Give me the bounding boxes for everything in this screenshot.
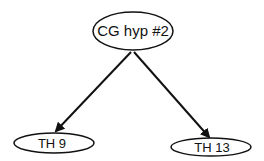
tree-diagram: CG hyp #2 TH 9 TH 13 xyxy=(0,0,264,161)
node-label: CG hyp #2 xyxy=(97,22,169,39)
edge-root-to-th9 xyxy=(56,52,131,131)
node-label: TH 13 xyxy=(194,140,229,155)
diagram-canvas: CG hyp #2 TH 9 TH 13 xyxy=(0,0,264,161)
node-cg-hyp-2: CG hyp #2 xyxy=(93,12,173,50)
node-th-9: TH 9 xyxy=(14,133,94,153)
edge-root-to-th13 xyxy=(134,52,209,137)
node-label: TH 9 xyxy=(38,136,66,151)
node-th-13: TH 13 xyxy=(171,138,251,156)
